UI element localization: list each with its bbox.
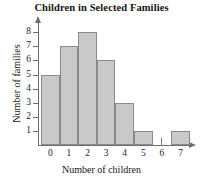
bar-3 <box>97 60 116 145</box>
y-tick-7 <box>33 46 39 47</box>
y-tick-3 <box>33 103 39 104</box>
y-tick-8 <box>33 32 39 33</box>
x-axis-line <box>38 145 190 146</box>
y-tick-5 <box>33 75 39 76</box>
x-tick-label-3: 3 <box>98 148 114 158</box>
bar-5 <box>134 131 153 145</box>
bar-7 <box>171 131 190 145</box>
y-tick-4 <box>33 89 39 90</box>
x-tick-label-0: 0 <box>42 148 58 158</box>
x-tick-label-5: 5 <box>135 148 151 158</box>
y-axis-label: Number of families <box>11 29 22 139</box>
x-axis-label: Number of children <box>0 164 203 175</box>
x-tick-6 <box>161 138 162 145</box>
bar-4 <box>115 103 134 145</box>
histogram-chart: Children in Selected Families 87654321 0… <box>0 0 203 185</box>
y-tick-1 <box>33 131 39 132</box>
x-tick-label-2: 2 <box>80 148 96 158</box>
y-axis-arrow-icon <box>35 16 41 23</box>
x-tick-label-6: 6 <box>154 148 170 158</box>
y-axis-line <box>38 22 39 146</box>
x-tick-label-4: 4 <box>117 148 133 158</box>
x-axis-arrow-icon <box>189 142 196 148</box>
y-tick-2 <box>33 117 39 118</box>
bar-1 <box>60 46 79 145</box>
x-tick-label-7: 7 <box>173 148 189 158</box>
x-tick-label-1: 1 <box>61 148 77 158</box>
y-tick-6 <box>33 60 39 61</box>
bar-2 <box>78 32 97 145</box>
plot-area: 87654321 01234567 <box>0 0 203 185</box>
bar-0 <box>41 75 60 146</box>
